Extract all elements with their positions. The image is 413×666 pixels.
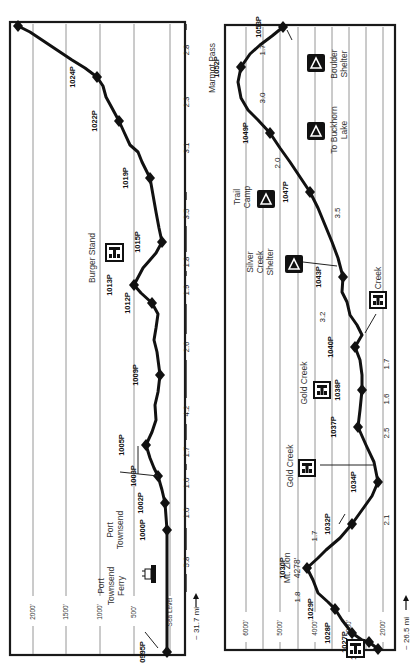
waypoint-label: 1022P bbox=[90, 110, 99, 132]
svg-text:BoulderShelter: BoulderShelter bbox=[329, 49, 349, 78]
restaurant-icon bbox=[105, 243, 124, 262]
segment-miles: 5.8 bbox=[182, 556, 191, 568]
svg-text:Creek: Creek bbox=[373, 266, 383, 289]
waypoint-label: 1009P bbox=[131, 364, 140, 386]
arrow-head-icon bbox=[403, 595, 409, 601]
segment-miles: 1.0 bbox=[182, 477, 191, 489]
waypoint-label: 1032P bbox=[323, 513, 332, 535]
svg-text:SilverCreekShelter: SilverCreekShelter bbox=[245, 248, 275, 275]
waypoint-marker-icon bbox=[162, 524, 172, 536]
waypoint-label: 1013P bbox=[105, 274, 114, 296]
waypoint-label: 1038P bbox=[333, 379, 342, 401]
right-elevation-panel: 6000'5000'4000'3000'2000' 1053P1052P1049… bbox=[207, 16, 411, 660]
right-distance-indicator: ~ 26.5 mi bbox=[402, 595, 411, 650]
elevation-label: 2000' bbox=[29, 604, 36, 620]
svg-text:Gold Creek: Gold Creek bbox=[299, 361, 309, 405]
restaurant-icon bbox=[346, 639, 365, 658]
segment-miles: 1.7 bbox=[382, 358, 391, 370]
waypoint-label: 1005P bbox=[117, 434, 126, 456]
campsite-icon bbox=[307, 54, 325, 72]
segment-miles: 4.2 bbox=[182, 405, 191, 417]
svg-text:Gold Creek: Gold Creek bbox=[285, 444, 295, 488]
segment-miles: 2.6 bbox=[182, 341, 191, 353]
left-elevation-panel: 2000'1500'1000'500'Sea Level 1026P1024P1… bbox=[0, 15, 201, 663]
elevation-label: 2000' bbox=[379, 620, 386, 636]
place-port-townsend: PortTownsend bbox=[105, 511, 125, 550]
waypoint-label: 1043P bbox=[314, 266, 323, 288]
elevation-label: 6000' bbox=[242, 620, 249, 636]
left-segment-mileage: 2.8 2.3 3.1 3.5 1.8 1.9 2.6 4.2 1.7 1.0 … bbox=[182, 24, 191, 592]
pointer-line bbox=[287, 30, 292, 40]
elevation-profile-diagram: 2000'1500'1000'500'Sea Level 1026P1024P1… bbox=[0, 0, 413, 666]
campsite-icon bbox=[285, 255, 303, 273]
waypoint-label: 1003P bbox=[129, 465, 138, 487]
place-trail-camp: TrailCamp bbox=[232, 185, 275, 208]
segment-miles: 1.7 bbox=[182, 446, 191, 458]
waypoint-label: 1034P bbox=[349, 471, 358, 493]
ferry-icon bbox=[142, 565, 156, 583]
restaurant-icon bbox=[369, 291, 387, 309]
restaurant-icon bbox=[313, 381, 331, 399]
port-townsend-line1: Port bbox=[105, 522, 115, 538]
segment-miles: 3.1 bbox=[182, 142, 191, 154]
place-boulder-shelter: BoulderShelter bbox=[307, 49, 349, 78]
waypoint-label: 1037P bbox=[329, 416, 338, 438]
place-creek: Creek bbox=[365, 266, 387, 333]
segment-miles: 2.8 bbox=[182, 44, 191, 56]
place-mt-zion: Mt. Zion4278' bbox=[282, 552, 302, 583]
waypoint-label: 1049P bbox=[241, 122, 250, 144]
elevation-label: 1500' bbox=[62, 604, 69, 620]
right-panel-frame bbox=[225, 25, 395, 650]
segment-miles: 3.2 bbox=[318, 311, 327, 323]
campsite-icon bbox=[257, 190, 275, 208]
arrow-head-icon bbox=[193, 593, 199, 599]
right-total-distance: ~ 26.5 mi bbox=[402, 617, 411, 650]
waypoint-marker-icon bbox=[155, 369, 165, 381]
segment-miles: 1.7 bbox=[310, 530, 319, 542]
waypoint-label: 1053P bbox=[254, 16, 263, 38]
segment-miles: 2.0 bbox=[273, 157, 282, 169]
svg-text:PortTownsend: PortTownsend bbox=[105, 511, 125, 550]
left-waypoint-labels: 1026P1024P1022P1019P1015P1013P1012P1009P… bbox=[0, 15, 147, 663]
svg-text:TrailCamp: TrailCamp bbox=[232, 185, 252, 208]
pointer-line bbox=[365, 314, 376, 333]
port-townsend-line2: Townsend bbox=[115, 511, 125, 550]
left-total-distance: ~ 31.7 mi bbox=[192, 607, 201, 640]
waypoint-label: 1029P bbox=[306, 598, 315, 620]
waypoint-label: 1047P bbox=[281, 181, 290, 203]
svg-text:To BuckhornLake: To BuckhornLake bbox=[329, 106, 349, 154]
campsite-icon bbox=[307, 122, 325, 140]
segment-miles: 1.9 bbox=[182, 284, 191, 296]
left-distance-indicator: ~ 31.7 mi bbox=[192, 593, 201, 640]
waypoint-label: 1040P bbox=[326, 336, 335, 358]
restaurant-icon bbox=[298, 459, 316, 477]
elevation-label: 1000' bbox=[96, 604, 103, 620]
pointer-line bbox=[120, 472, 158, 476]
svg-text:Mt. Zion4278': Mt. Zion4278' bbox=[282, 552, 302, 583]
trailhead-restaurant bbox=[346, 639, 365, 658]
place-to-buckhorn-lake: To BuckhornLake bbox=[307, 106, 349, 154]
left-elevation-labels: 2000'1500'1000'500'Sea Level bbox=[28, 596, 175, 626]
right-trail-profile-line bbox=[238, 27, 378, 649]
segment-miles: 1.6 bbox=[382, 393, 391, 405]
waypoint-label: 1000P bbox=[138, 519, 147, 541]
segment-miles: 2.1 bbox=[382, 514, 391, 526]
waypoint-marker-icon bbox=[160, 497, 170, 509]
waypoint-label: 0995P bbox=[138, 641, 147, 663]
segment-miles: 1.8 bbox=[182, 256, 191, 268]
elevation-label: 5000' bbox=[276, 620, 283, 636]
waypoint-marker-icon bbox=[162, 646, 172, 658]
segment-miles: 3.0 bbox=[258, 92, 267, 104]
place-silver-creek-shelter: SilverCreekShelter bbox=[245, 248, 337, 275]
segment-miles: 3.5 bbox=[182, 208, 191, 220]
place-gold-creek-lower: Gold Creek bbox=[285, 444, 375, 488]
segment-miles: 1.7 bbox=[258, 44, 267, 56]
segment-miles: 2.3 bbox=[182, 96, 191, 108]
pointer-line bbox=[339, 514, 345, 524]
waypoint-label: 1015P bbox=[133, 231, 142, 253]
waypoint-marker-icon bbox=[373, 476, 383, 488]
left-elevation-gridlines bbox=[33, 24, 170, 654]
waypoint-marker-icon bbox=[338, 271, 348, 283]
right-elevation-gridlines bbox=[246, 27, 383, 649]
waypoint-label: 1019P bbox=[121, 167, 130, 189]
